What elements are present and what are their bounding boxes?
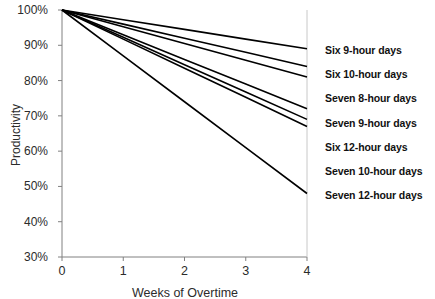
y-tick-90: 90% [4,39,48,51]
productivity-overtime-chart: 30%40%50%60%70%80%90%100% 01234 Producti… [0,0,435,299]
x-axis-title: Weeks of Overtime [60,286,310,299]
x-tick-4: 4 [297,264,317,278]
series-label-0: Six 9-hour days [325,44,402,56]
x-tick-0: 0 [52,264,72,278]
y-tick-40: 40% [4,216,48,228]
series-label-5: Seven 10-hour days [325,165,422,177]
series-lines [62,10,307,193]
x-tick-1: 1 [113,264,133,278]
series-line-4 [62,10,307,119]
series-label-2: Seven 8-hour days [325,92,417,104]
series-label-3: Seven 9-hour days [325,117,417,129]
x-tick-3: 3 [236,264,256,278]
series-label-4: Six 12-hour days [325,141,407,153]
series-label-1: Six 10-hour days [325,68,407,80]
series-line-5 [62,10,307,126]
tick-marks [58,10,307,261]
x-tick-2: 2 [175,264,195,278]
y-axis-title: Productivity [9,75,23,195]
series-label-6: Seven 12-hour days [325,189,422,201]
y-tick-30: 30% [4,251,48,263]
y-tick-100: 100% [4,4,48,16]
axes [62,10,307,257]
series-line-3 [62,10,307,109]
